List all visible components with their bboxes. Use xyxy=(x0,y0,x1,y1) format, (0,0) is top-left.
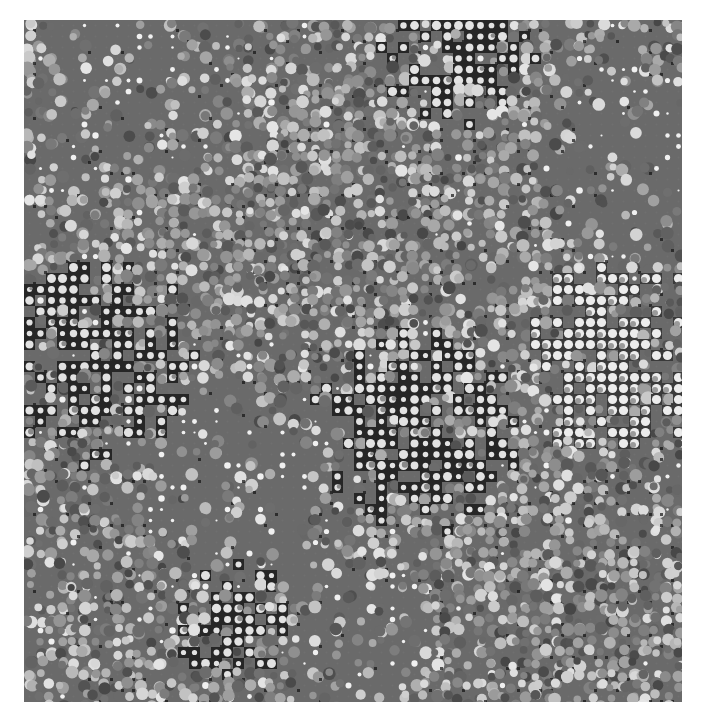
cropped-caption-text xyxy=(24,0,682,8)
halftone-image xyxy=(24,20,682,702)
halftone-image-frame xyxy=(24,20,682,702)
page xyxy=(0,0,705,714)
